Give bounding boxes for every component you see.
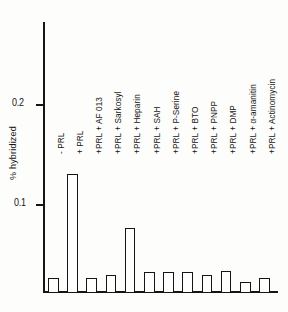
bar-10 — [240, 282, 251, 292]
bar-9 — [221, 271, 232, 292]
bar-category-label-5: +PRL + SAH — [153, 106, 162, 154]
plot-area: - PRL+ PRL+PRL + AF 013+PRL + Sarkosyl+P… — [0, 0, 288, 312]
bar-4 — [125, 228, 136, 292]
bar-3 — [106, 275, 117, 292]
bar-category-label-3: +PRL + Sarkosyl — [114, 91, 123, 154]
bar-category-label-7: +PRL + BTO — [191, 107, 200, 154]
bar-category-label-6: +PRL + P-Serine — [172, 91, 181, 154]
bar-category-label-8: +PRL + PNPP — [210, 101, 219, 154]
bar-category-label-9: +PRL + DMP — [229, 105, 238, 154]
bar-7 — [182, 272, 193, 292]
bar-5 — [144, 272, 155, 292]
bar-8 — [202, 275, 213, 292]
bar-6 — [163, 272, 174, 292]
bar-2 — [86, 278, 97, 292]
bar-category-label-10: +PRL + α-amanitin — [249, 84, 258, 154]
bar-category-label-0: - PRL — [57, 133, 66, 154]
hybridization-bar-chart-figure: 0.2 0.1 % hybridized - PRL+ PRL+PRL + AF… — [0, 0, 288, 312]
bar-category-label-2: +PRL + AF 013 — [95, 97, 104, 154]
bar-category-label-1: + PRL — [76, 131, 85, 154]
bar-category-label-4: +PRL + Heparin — [133, 94, 142, 154]
bar-11 — [259, 278, 270, 292]
bar-category-label-11: +PRL + Actinomycin — [268, 79, 277, 154]
bar-1 — [67, 174, 78, 292]
bar-0 — [48, 278, 59, 292]
